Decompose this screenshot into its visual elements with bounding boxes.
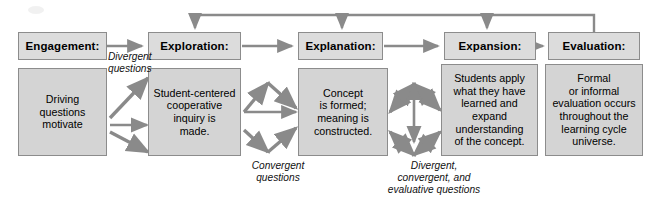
phase-body-evaluation: Formal or informal evaluation occurs thr… [545,64,643,156]
edge-label-convergent-questions: Convergent questions [238,160,318,184]
phase-body-engagement: Driving questions motivate [18,68,107,156]
bidirectional-diamond-arrows [390,84,440,155]
phase-body-text-explanation: Concept is formed; meaning is constructe… [314,87,372,138]
edge-label-divergent-questions: Divergent questions [108,51,164,75]
phase-body-explanation: Concept is formed; meaning is constructe… [298,68,388,156]
phase-body-expansion: Students apply what they have learned an… [441,64,538,156]
divergent-fan-arrows [110,78,148,152]
phase-header-evaluation: Evaluation: [548,32,640,60]
diagram-canvas: Engagement: Driving questions motivate E… [0,0,655,211]
convergent-cluster-arrows [244,83,296,152]
phase-body-text-evaluation: Formal or informal evaluation occurs thr… [552,72,635,148]
phase-header-expansion: Expansion: [444,32,536,60]
edge-label-divergent-convergent-evaluative-questions: Divergent, convergent, and evaluative qu… [368,160,500,197]
phase-header-engagement: Engagement: [18,32,107,60]
phase-body-text-engagement: Driving questions motivate [40,93,86,131]
phase-body-text-exploration: Student-centered cooperative inquiry is … [154,87,236,138]
phase-body-exploration: Student-centered cooperative inquiry is … [148,68,241,156]
phase-body-text-expansion: Students apply what they have learned an… [454,72,526,148]
phase-header-explanation: Explanation: [298,32,383,60]
